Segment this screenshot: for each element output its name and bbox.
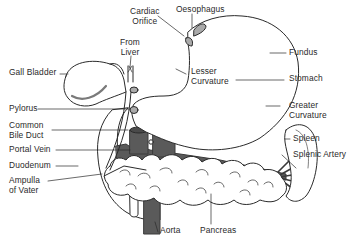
label-greater-curvature: Greater Curvature	[289, 101, 327, 120]
label-duodenum: Duodenum	[9, 161, 51, 171]
vessel-trunk-left	[130, 130, 148, 154]
pancreas-shape	[104, 155, 286, 206]
label-fundus: Fundus	[289, 48, 318, 58]
label-cardiac-orifice: Cardiac Orifice	[130, 7, 160, 26]
label-portal-vein: Portal Vein	[9, 145, 51, 155]
label-spleen: Spleen	[293, 134, 320, 144]
label-from-liver: From Liver	[120, 38, 140, 57]
label-splenic-artery: Splenic Artery	[293, 150, 346, 160]
label-aorta: Aorta	[160, 226, 181, 236]
label-pancreas: Pancreas	[200, 226, 236, 236]
label-common-bile-duct: Common Bile Duct	[9, 121, 44, 140]
cardiac-orifice-shape	[185, 37, 192, 46]
label-gall-bladder: Gall Bladder	[9, 68, 56, 78]
label-lesser-curvature: Lesser Curvature	[191, 67, 229, 86]
label-oesophagus: Oesophagus	[176, 5, 225, 15]
label-stomach: Stomach	[289, 74, 323, 84]
label-ampulla-of-vater: Ampulla of Vater	[9, 176, 40, 195]
label-pylorus: Pylorus	[9, 104, 38, 114]
vessel-branch-knob	[149, 140, 153, 144]
pylorus-shape	[130, 107, 138, 114]
gall-bladder-shape	[64, 61, 126, 106]
